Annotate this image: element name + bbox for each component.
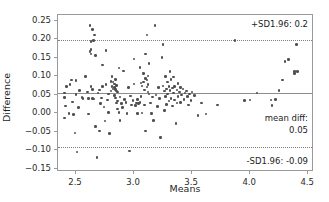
- data-point: [70, 79, 73, 82]
- x-tick-label: 4.5: [300, 177, 314, 187]
- data-point: [133, 58, 136, 61]
- data-point: [151, 96, 154, 99]
- data-point: [166, 93, 169, 96]
- data-point: [281, 79, 284, 82]
- data-point: [92, 98, 95, 101]
- data-point: [128, 150, 131, 153]
- data-point: [150, 112, 153, 115]
- data-point: [69, 83, 72, 86]
- x-tick-mark: [307, 171, 308, 174]
- data-point: [175, 122, 178, 125]
- y-tick-label: 0.25: [32, 15, 51, 25]
- data-point: [182, 88, 185, 91]
- data-point: [249, 99, 252, 102]
- data-point: [168, 85, 171, 88]
- data-point: [72, 113, 75, 116]
- data-point: [132, 99, 135, 102]
- data-point: [141, 112, 144, 115]
- data-point: [146, 79, 149, 82]
- data-point: [163, 109, 166, 112]
- data-point: [125, 101, 128, 104]
- data-point: [205, 113, 208, 116]
- data-point: [200, 102, 203, 105]
- y-tick-label: 0.00: [32, 107, 51, 117]
- data-point: [110, 90, 113, 93]
- data-point: [158, 97, 161, 100]
- data-point: [149, 102, 152, 105]
- data-point: [115, 102, 118, 105]
- y-tick-label: −0.15: [25, 163, 51, 173]
- data-point: [162, 85, 165, 88]
- x-tick-label: 3.0: [126, 177, 140, 187]
- data-point: [166, 81, 169, 84]
- data-point: [169, 70, 172, 73]
- data-point: [116, 91, 119, 94]
- y-tick-label: 0.20: [32, 33, 51, 43]
- upper-sd-annotation: +SD1.96: 0.2: [251, 19, 308, 29]
- x-tick-mark: [75, 171, 76, 174]
- data-point: [130, 104, 133, 107]
- x-tick-mark: [191, 171, 192, 174]
- data-point: [106, 99, 109, 102]
- y-tick-label: −0.05: [25, 126, 51, 136]
- data-point: [74, 132, 77, 135]
- data-point: [179, 101, 182, 104]
- data-point: [139, 66, 142, 69]
- y-tick-label: 0.15: [32, 52, 51, 62]
- data-point: [187, 104, 190, 107]
- x-tick-mark: [133, 171, 134, 174]
- data-point: [183, 98, 186, 101]
- data-point: [159, 136, 162, 139]
- data-point: [296, 70, 299, 73]
- mean-diff-annotation: mean diff:: [265, 113, 308, 123]
- data-point: [176, 102, 179, 105]
- data-point: [142, 72, 145, 75]
- data-point: [94, 54, 97, 57]
- data-point: [197, 114, 200, 117]
- data-point: [152, 119, 155, 122]
- data-point: [193, 94, 196, 97]
- data-point: [234, 39, 237, 42]
- data-point: [96, 156, 99, 159]
- data-point: [170, 78, 173, 81]
- data-point: [93, 34, 96, 37]
- data-point: [120, 102, 123, 105]
- data-point: [146, 34, 149, 37]
- data-point: [84, 75, 87, 78]
- data-point: [143, 89, 146, 92]
- data-point: [173, 99, 176, 102]
- data-point: [119, 119, 122, 122]
- data-point: [91, 28, 94, 31]
- data-point: [107, 93, 110, 96]
- y-tick-label: 0.10: [32, 70, 51, 80]
- data-point: [94, 125, 97, 128]
- data-point: [68, 112, 71, 115]
- data-point: [116, 108, 119, 111]
- data-point: [156, 105, 159, 108]
- data-point: [127, 86, 130, 89]
- data-point: [188, 93, 191, 96]
- data-point: [103, 106, 106, 109]
- data-point: [172, 92, 175, 95]
- data-point: [293, 72, 296, 75]
- data-point: [170, 97, 173, 100]
- data-point: [148, 62, 151, 65]
- data-point: [65, 85, 68, 88]
- mean-diff-value-annotation: 0.05: [289, 125, 308, 135]
- data-point: [63, 96, 66, 99]
- data-point: [64, 105, 67, 108]
- data-point: [177, 95, 180, 98]
- data-point: [91, 88, 94, 91]
- data-point: [100, 97, 103, 100]
- data-point: [274, 98, 277, 101]
- data-point: [186, 95, 189, 98]
- data-point: [136, 112, 139, 115]
- data-point: [77, 106, 80, 109]
- data-point: [157, 86, 160, 89]
- data-point: [87, 97, 90, 100]
- data-point: [90, 53, 93, 56]
- x-tick-mark: [249, 171, 250, 174]
- data-point: [104, 120, 107, 123]
- data-point: [105, 49, 108, 52]
- data-point: [295, 43, 298, 46]
